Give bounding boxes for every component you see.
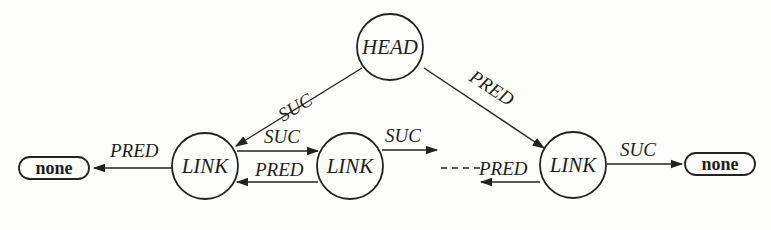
node-none-left: none (19, 157, 89, 179)
edge-last-to-none: SUC (607, 139, 682, 164)
node-label: HEAD (361, 35, 418, 59)
node-head: HEAD (357, 14, 423, 80)
edge-last-to-prev: PRED (441, 158, 540, 182)
edge-label: PRED (109, 140, 159, 161)
node-link-1: LINK (172, 133, 238, 199)
node-label: LINK (181, 154, 230, 178)
edge-link1-to-none: PRED (94, 140, 173, 168)
edge-label: SUC (264, 126, 300, 147)
node-none-right: none (685, 153, 755, 175)
node-label: LINK (549, 153, 598, 177)
edge-label: SUC (274, 89, 316, 126)
edge-link2-to-link1: PRED (237, 159, 318, 182)
edge-head-to-last: PRED (424, 65, 544, 148)
node-label: none (701, 154, 738, 174)
edge-link2-to-next: SUC (382, 125, 437, 150)
edge-label: PRED (478, 158, 528, 179)
edge-label: PRED (465, 65, 518, 110)
node-link-last: LINK (540, 132, 606, 198)
node-link-2: LINK (317, 133, 383, 199)
linked-list-diagram: SUC PRED PRED SUC PRED SUC PRED SUC HEAD… (0, 0, 771, 230)
edge-label: PRED (254, 159, 304, 180)
node-label: LINK (326, 154, 375, 178)
edge-label: SUC (385, 125, 421, 146)
edge-label: SUC (620, 139, 656, 160)
node-label: none (35, 158, 72, 178)
